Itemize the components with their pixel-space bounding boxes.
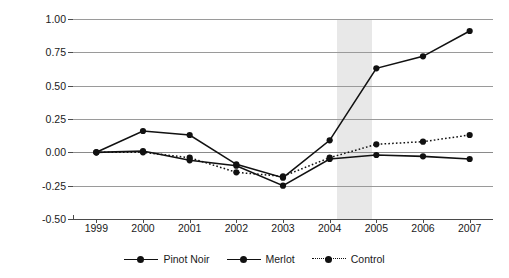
y-axis-tick-mark [68,152,73,153]
x-axis-tick-label: 2002 [225,222,248,234]
y-axis-tick-label: -0.25 [42,180,66,192]
x-axis-tick-label: 1999 [85,222,108,234]
legend-label: Control [350,253,385,265]
legend-swatch-icon [124,254,158,264]
x-axis-tick-label: 2001 [178,222,201,234]
data-point-marker [467,132,473,138]
data-point-marker [140,149,146,155]
legend-swatch-icon [227,254,261,264]
y-axis-tick-mark [68,86,73,87]
data-point-marker [140,128,146,134]
x-axis-tick-mark [423,219,424,223]
x-axis-tick-label: 2007 [458,222,481,234]
x-axis-tick-label: 2004 [318,222,341,234]
y-axis-tick-mark [68,219,73,220]
x-axis-tick-mark [190,219,191,223]
y-axis-tick-mark [68,119,73,120]
data-point-marker [373,141,379,147]
x-axis-tick-label: 2006 [411,222,434,234]
data-point-marker [467,28,473,34]
data-point-marker [373,65,379,71]
y-axis-tick-label: 0.50 [46,80,66,92]
data-point-marker [420,53,426,59]
legend-item-merlot[interactable]: Merlot [227,253,295,265]
series-layer [73,19,493,219]
y-axis-tick-label: 1.00 [46,13,66,25]
x-axis-tick-label: 2000 [131,222,154,234]
x-axis-tick-mark [96,219,97,223]
line-chart: Indexed case volume (%) 1.000.750.500.25… [0,0,509,278]
y-axis-tick-mark [68,19,73,20]
data-point-marker [420,139,426,145]
x-axis-tick-label: 2005 [365,222,388,234]
plot-area [73,19,493,219]
y-axis-tick-label: 0.25 [46,113,66,125]
x-axis-tick-mark [470,219,471,223]
legend-label: Merlot [265,253,295,265]
y-axis-origin-tick [73,215,74,220]
y-axis-tick-mark [68,186,73,187]
data-point-marker [467,156,473,162]
x-axis-tick-mark [376,219,377,223]
data-point-marker [233,169,239,175]
legend-item-pinot-noir[interactable]: Pinot Noir [124,253,209,265]
y-axis-tick-labels: 1.000.750.500.250.00-0.25-0.50 [0,19,66,219]
data-point-marker [187,132,193,138]
data-point-marker [327,137,333,143]
data-point-marker [327,155,333,161]
data-point-marker [373,152,379,158]
data-point-marker [93,149,99,155]
x-axis-tick-mark [143,219,144,223]
x-axis-tick-mark [283,219,284,223]
data-point-marker [280,183,286,189]
data-point-marker [420,153,426,159]
y-axis-tick-label: 0.00 [46,146,66,158]
y-axis-tick-label: -0.50 [42,213,66,225]
x-axis-tick-label: 2003 [271,222,294,234]
data-point-marker [187,155,193,161]
y-axis-tick-mark [68,52,73,53]
legend-marker-icon [240,256,247,263]
x-axis-tick-mark [330,219,331,223]
data-point-marker [233,163,239,169]
series-pinot-noir [93,28,473,181]
legend-marker-icon [137,256,144,263]
x-axis-tick-mark [236,219,237,223]
legend-label: Pinot Noir [162,253,209,265]
legend-marker-icon [325,256,332,263]
series-merlot [93,148,473,189]
legend-swatch-icon [312,254,346,264]
legend-item-control[interactable]: Control [312,253,385,265]
data-point-marker [280,173,286,179]
chart-legend: Pinot NoirMerlotControl [0,248,509,270]
y-axis-tick-label: 0.75 [46,46,66,58]
